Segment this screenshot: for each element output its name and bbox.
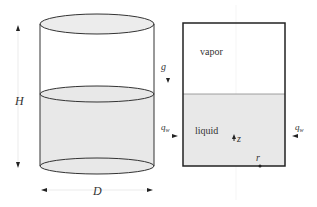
height-dimension: H (14, 25, 25, 168)
bottom-ellipse (40, 158, 154, 174)
liquid-label: liquid (195, 125, 218, 136)
arrow-left-icon (41, 188, 47, 192)
liquid-surface-ellipse (40, 86, 154, 102)
top-ellipse (40, 14, 154, 34)
height-label: H (14, 94, 25, 108)
arrow-down-icon (16, 162, 20, 168)
diameter-label: D (92, 184, 102, 198)
diagram: H D vapor liquid g qw qw z r (0, 0, 317, 207)
arrow-right-icon (147, 188, 153, 192)
arrow-up-icon (16, 25, 20, 31)
r-axis-label: r (256, 152, 260, 163)
heat-flux-left-arrow-icon (172, 134, 178, 138)
gravity-label: g (161, 61, 166, 72)
heat-flux-right-arrow-icon (292, 134, 298, 138)
cylinder (40, 14, 154, 174)
diameter-dimension: D (41, 184, 153, 198)
heat-flux-left-label: qw (161, 122, 170, 133)
heat-flux-right-label: qw (295, 122, 304, 133)
gravity-arrow-icon (166, 78, 170, 83)
z-axis-label: z (236, 133, 241, 144)
liquid-body (40, 94, 154, 166)
cross-section: vapor liquid g qw qw z r (161, 5, 304, 200)
vapor-label: vapor (200, 46, 223, 57)
r-axis-marker (259, 165, 262, 168)
